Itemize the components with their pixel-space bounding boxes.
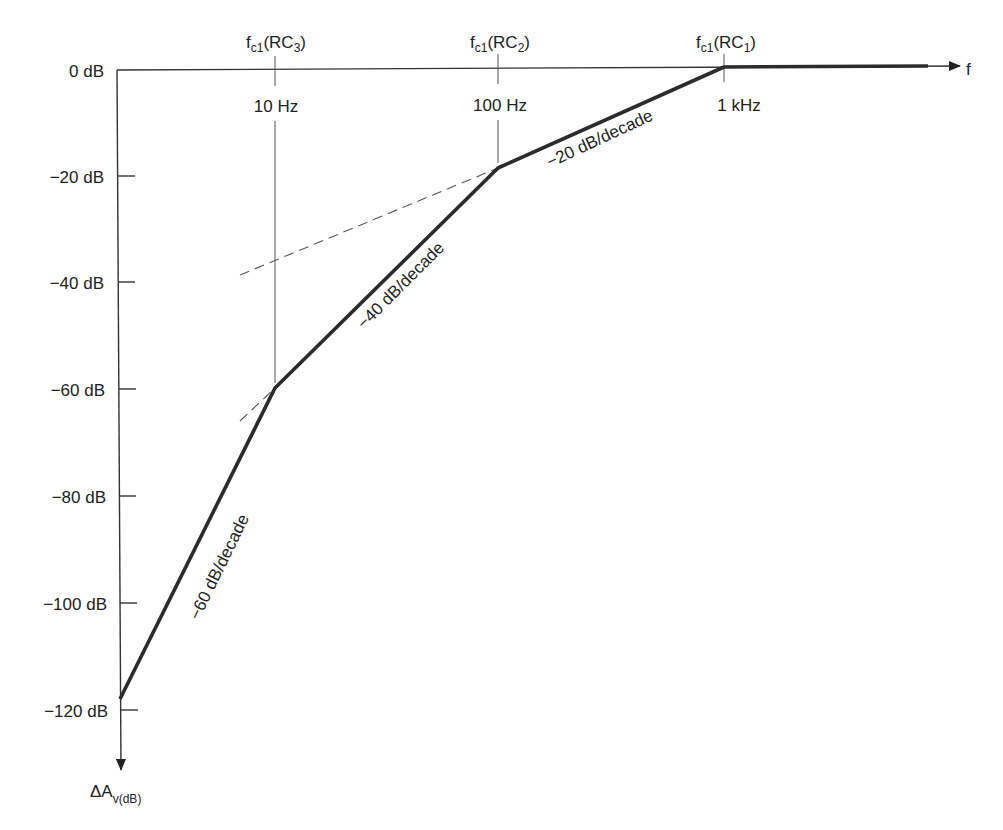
fc-rc1-label: fc1(RC1) bbox=[696, 33, 756, 55]
slope-label-40: −40 dB/decade bbox=[353, 238, 448, 333]
svg-text:−40 dB: −40 dB bbox=[50, 274, 104, 293]
y-ticks bbox=[118, 176, 138, 710]
fc-rc2-label: fc1(RC2) bbox=[470, 33, 530, 55]
svg-text:10 Hz: 10 Hz bbox=[254, 97, 298, 116]
bode-plot: f ΔAv(dB) 0 dB −20 dB −40 dB −60 dB −80 … bbox=[0, 0, 1003, 830]
svg-text:−60 dB: −60 dB bbox=[51, 381, 105, 400]
slope-label-60: −60 dB/decade bbox=[186, 511, 253, 623]
fc-rc3-label: fc1(RC3) bbox=[246, 33, 306, 55]
svg-text:1 kHz: 1 kHz bbox=[717, 96, 760, 115]
svg-text:−120 dB: −120 dB bbox=[44, 702, 108, 721]
svg-text:−80 dB: −80 dB bbox=[52, 488, 106, 507]
y-tick-labels: 0 dB −20 dB −40 dB −60 dB −80 dB −100 dB… bbox=[43, 62, 108, 721]
frequency-labels: 10 Hz 100 Hz 1 kHz bbox=[254, 96, 761, 116]
response-curve bbox=[120, 66, 928, 699]
svg-text:−20 dB: −20 dB bbox=[50, 168, 104, 187]
cutoff-labels: fc1(RC3) fc1(RC2) fc1(RC1) bbox=[246, 33, 756, 55]
svg-text:−100 dB: −100 dB bbox=[43, 595, 107, 614]
svg-text:100 Hz: 100 Hz bbox=[473, 96, 527, 115]
y-axis-label: ΔAv(dB) bbox=[90, 782, 141, 806]
x-axis-label: f bbox=[966, 60, 971, 79]
svg-text:0 dB: 0 dB bbox=[69, 62, 104, 81]
y-axis bbox=[117, 70, 121, 770]
